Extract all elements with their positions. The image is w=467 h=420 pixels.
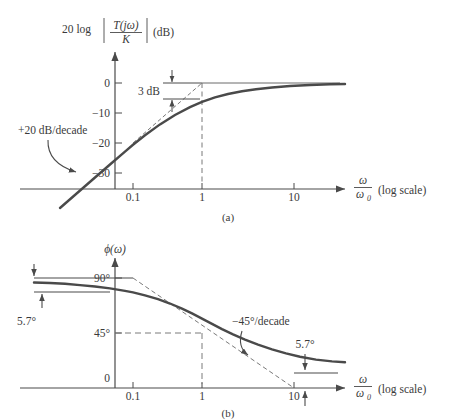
- phase-y-tick-45: 45°: [94, 327, 111, 339]
- magnitude-slope-label: +20 dB/decade: [18, 124, 87, 136]
- magnitude-x-tick-1: 1: [199, 191, 205, 203]
- magnitude-x-axis-label: ω ω 0 (log scale): [354, 174, 426, 203]
- phase-y-ticks: [115, 278, 122, 333]
- magnitude-slope-annotation: +20 dB/decade: [18, 124, 87, 172]
- phase-slope-annotation: −45°/decade: [232, 315, 290, 355]
- panel-a-caption: (a): [222, 211, 235, 224]
- magnitude-y-tick-minus20: −20: [92, 137, 110, 149]
- phase-x-label-denominator-sub: 0: [367, 393, 371, 402]
- phase-y-tick-0: 0: [104, 372, 110, 384]
- magnitude-x-tick-10: 10: [288, 191, 300, 203]
- phase-y-axis-label: ϕ(ω): [104, 243, 126, 256]
- panel-b-caption: (b): [222, 407, 235, 420]
- magnitude-x-label-denominator-sub: 0: [367, 194, 371, 203]
- phase-x-label-numerator: ω: [359, 373, 367, 385]
- phase-x-label-scale-note: (log scale): [378, 383, 426, 396]
- magnitude-y-label-numerator: T(jω): [113, 19, 139, 32]
- phase-exact-curve: [34, 283, 345, 363]
- magnitude-slope-arrow: [48, 140, 76, 172]
- phase-error-left-label: 5.7°: [17, 315, 36, 327]
- magnitude-x-label-scale-note: (log scale): [378, 184, 426, 197]
- magnitude-y-label-prefix: 20 log: [62, 23, 91, 36]
- magnitude-y-axis-label: 20 log T(jω) K (dB): [62, 18, 174, 45]
- phase-x-ticks: [133, 382, 294, 388]
- three-db-label: 3 dB: [138, 85, 160, 97]
- magnitude-y-tick-minus10: −10: [92, 107, 110, 119]
- magnitude-y-tick-0: 0: [104, 77, 110, 89]
- phase-x-tick-0p1: 0.1: [126, 390, 141, 402]
- phase-plot-panel: ϕ(ω) 90° 45° 0 0.1 1 10 ω ω 0 (log scale…: [17, 243, 426, 420]
- magnitude-plot-panel: 20 log T(jω) K (dB) 0 −10 −20 −30 0.1 1: [18, 18, 426, 224]
- phase-x-axis-label: ω ω 0 (log scale): [354, 373, 426, 402]
- phase-error-right-label: 5.7°: [296, 338, 315, 350]
- magnitude-x-tick-0p1: 0.1: [126, 191, 141, 203]
- magnitude-x-ticks: [133, 183, 294, 189]
- phase-slope-label: −45°/decade: [232, 315, 290, 327]
- magnitude-y-label-units: (dB): [153, 26, 174, 39]
- phase-x-tick-1: 1: [199, 390, 205, 402]
- phase-slope-arrow: [240, 331, 248, 355]
- phase-x-tick-10: 10: [288, 390, 300, 402]
- magnitude-y-label-denominator: K: [121, 33, 131, 45]
- magnitude-x-label-denominator: ω: [356, 188, 364, 200]
- magnitude-x-label-numerator: ω: [359, 174, 367, 186]
- bode-plot-figure: 20 log T(jω) K (dB) 0 −10 −20 −30 0.1 1: [0, 0, 467, 420]
- phase-x-label-denominator: ω: [356, 387, 364, 399]
